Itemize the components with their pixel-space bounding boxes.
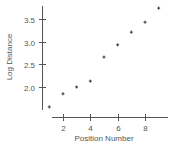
data-point-plus-icon bbox=[48, 105, 51, 108]
data-point-plus-icon bbox=[89, 80, 92, 83]
x-tick-label: 6 bbox=[116, 124, 121, 133]
data-point-plus-icon bbox=[116, 43, 119, 46]
x-tick-label: 2 bbox=[61, 124, 66, 133]
y-axis-label: Log Distance bbox=[5, 33, 14, 80]
y-tick-label: 3.0 bbox=[24, 39, 36, 48]
x-axis-label: Position Number bbox=[74, 134, 133, 143]
y-axis: 2.02.53.03.5 bbox=[24, 6, 46, 110]
y-tick-label: 2.5 bbox=[24, 61, 36, 70]
data-point-plus-icon bbox=[75, 86, 78, 89]
data-point-plus-icon bbox=[130, 31, 133, 34]
data-point-plus-icon bbox=[61, 92, 64, 95]
x-tick-label: 4 bbox=[88, 124, 93, 133]
x-tick-label: 8 bbox=[143, 124, 148, 133]
y-tick-label: 3.5 bbox=[24, 16, 36, 25]
data-point-plus-icon bbox=[143, 21, 146, 24]
x-axis: 2468 bbox=[52, 114, 168, 133]
data-point-plus-icon bbox=[102, 56, 105, 59]
data-points bbox=[48, 7, 160, 109]
data-point-plus-icon bbox=[157, 7, 160, 10]
y-tick-label: 2.0 bbox=[24, 84, 36, 93]
scatter-chart: 2.02.53.03.5 2468 Log Distance Position … bbox=[0, 0, 174, 150]
